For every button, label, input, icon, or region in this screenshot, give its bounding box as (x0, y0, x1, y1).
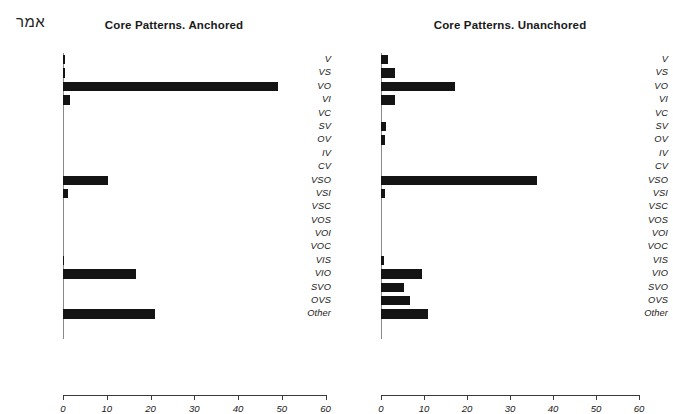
bar-row: VI (337, 93, 673, 106)
bar-row: OVS (337, 294, 673, 307)
bar-row: VSC (0, 200, 336, 213)
bar (63, 68, 65, 77)
category-label: VOI (629, 227, 673, 240)
bar (381, 162, 382, 171)
category-label: VOC (629, 240, 673, 253)
category-label: VOS (279, 214, 336, 227)
bar (381, 55, 388, 64)
bar-row: Other (337, 307, 673, 320)
category-label: VOC (279, 240, 336, 253)
bar-row: VC (0, 107, 336, 120)
bar-row: VSO (337, 174, 673, 187)
axis-tick-label: 40 (233, 403, 244, 414)
bar (63, 109, 64, 118)
axis-tick-label: 60 (634, 403, 645, 414)
panel-anchored: Core Patterns. Anchored VVSVOVIVCSVOVIVC… (0, 0, 336, 383)
axis-tick (381, 395, 382, 400)
axis-tick-label: 20 (145, 403, 156, 414)
category-label: OVS (629, 294, 673, 307)
bar (381, 242, 382, 251)
bar (63, 283, 64, 292)
bar-row: V (0, 53, 336, 66)
bar (381, 122, 386, 131)
bar-rows-anchored: VVSVOVIVCSVOVIVCVVSOVSIVSCVOSVOIVOCVISVI… (0, 53, 336, 321)
category-label: VS (629, 66, 673, 79)
bar (381, 296, 410, 305)
bar (381, 149, 382, 158)
panel-title-anchored: Core Patterns. Anchored (6, 19, 342, 31)
axis-tick (194, 395, 195, 400)
plot-area-unanchored: VVSVOVIVCSVOVIVCVVSOVSIVSCVOSVOIVOCVISVI… (337, 53, 673, 383)
bar-row: VOI (337, 227, 673, 240)
category-label: VSO (629, 174, 673, 187)
bar-row: VOC (337, 240, 673, 253)
category-label: CV (629, 160, 673, 173)
category-label: Other (629, 307, 673, 320)
axis-tick (424, 395, 425, 400)
bar (63, 122, 64, 131)
bar (63, 216, 64, 225)
axis-tick-label: 30 (189, 403, 200, 414)
bar (381, 216, 382, 225)
axis-tick (282, 395, 283, 400)
plot-area-anchored: VVSVOVIVCSVOVIVCVVSOVSIVSCVOSVOIVOCVISVI… (0, 53, 336, 383)
category-label: SVO (629, 281, 673, 294)
axis-tick-label: 0 (378, 403, 383, 414)
axis-tick (467, 395, 468, 400)
category-label: V (279, 53, 336, 66)
bar (381, 189, 385, 198)
axis-tick (510, 395, 511, 400)
axis-tick (596, 395, 597, 400)
category-label: VOI (279, 227, 336, 240)
category-label: V (629, 53, 673, 66)
bar (63, 202, 64, 211)
panel-title-unanchored: Core Patterns. Unanchored (342, 19, 673, 31)
category-label: VSI (629, 187, 673, 200)
bar (381, 176, 537, 185)
bar-row: OV (0, 133, 336, 146)
bar-row: Other (0, 307, 336, 320)
bar-row: VS (337, 66, 673, 79)
category-label: VC (279, 107, 336, 120)
bar (63, 189, 68, 198)
bar (381, 269, 422, 278)
bar-row: VC (337, 107, 673, 120)
category-label: VS (279, 66, 336, 79)
category-label: VSC (279, 200, 336, 213)
bar-row: VOS (0, 214, 336, 227)
bar (63, 176, 108, 185)
axis-tick (553, 395, 554, 400)
bar-row: SVO (337, 281, 673, 294)
category-label: VOS (629, 214, 673, 227)
category-label: VI (629, 93, 673, 106)
category-label: VSI (279, 187, 336, 200)
category-label: CV (279, 160, 336, 173)
bar-row: VIO (337, 267, 673, 280)
category-label: IV (279, 147, 336, 160)
axis-tick (238, 395, 239, 400)
bar-row: VOS (337, 214, 673, 227)
bar (63, 269, 136, 278)
bar (63, 55, 65, 64)
bar-row: VS (0, 66, 336, 79)
bar (63, 82, 278, 91)
bar (381, 68, 395, 77)
bar (381, 283, 404, 292)
axis-tick-label: 20 (462, 403, 473, 414)
axis-tick-label: 40 (548, 403, 559, 414)
category-label: VO (629, 80, 673, 93)
axis-tick (107, 395, 108, 400)
bar (63, 242, 64, 251)
bar-row: OVS (0, 294, 336, 307)
bar (63, 135, 64, 144)
bar-row: CV (0, 160, 336, 173)
bar-row: OV (337, 133, 673, 146)
bar-row: VI (0, 93, 336, 106)
bar (63, 162, 64, 171)
bar (63, 95, 70, 104)
bar (63, 256, 64, 265)
axis-tick-label: 30 (505, 403, 516, 414)
category-label: VIO (279, 267, 336, 280)
bar-row: SVO (0, 281, 336, 294)
bar-row: VIS (337, 254, 673, 267)
